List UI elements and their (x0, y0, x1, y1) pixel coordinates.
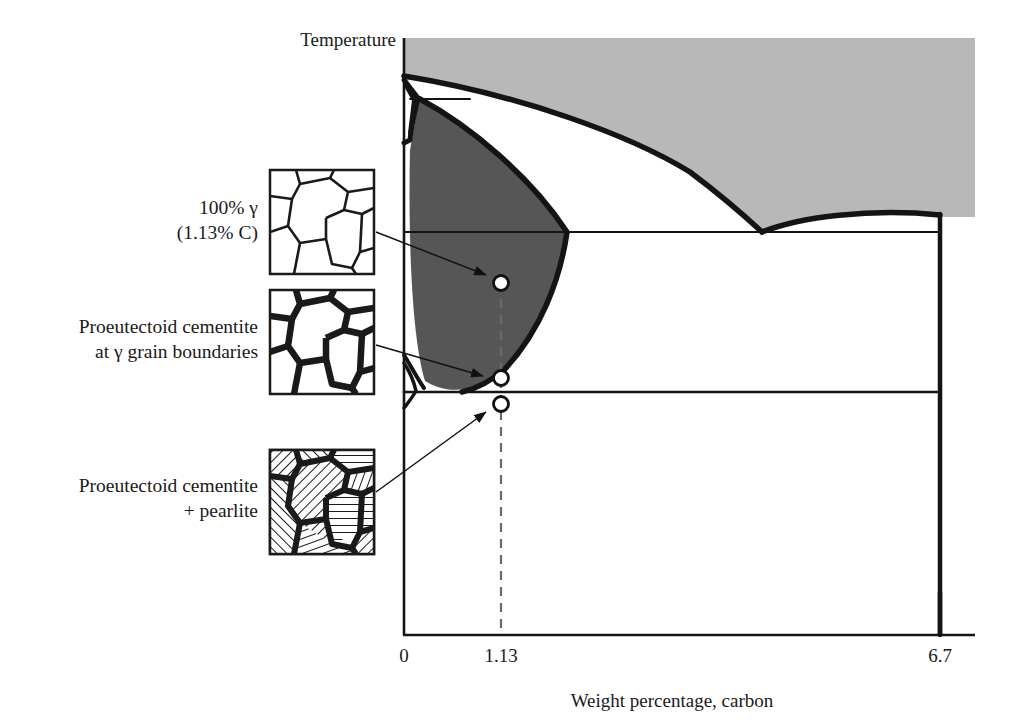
callout-austenite-line2: (1.13% C) (177, 222, 258, 244)
x-axis-title: Weight percentage, carbon (571, 690, 774, 711)
marker-proeutectoid-cementite[interactable] (494, 371, 509, 386)
phase-diagram-svg: Temperature Weight percentage, carbon 0 … (0, 0, 1010, 728)
micrograph-cementite-pearlite (270, 450, 374, 554)
callout-cementite-line1: Proeutectoid cementite (79, 316, 258, 337)
callout-cementite-line2: at γ grain boundaries (95, 341, 258, 362)
figure-root: Temperature Weight percentage, carbon 0 … (0, 0, 1010, 728)
micrograph-austenite (270, 170, 374, 274)
micrograph-proeutectoid-cementite (270, 290, 374, 394)
y-axis-title: Temperature (300, 29, 396, 50)
callout-pearlite-line1: Proeutectoid cementite (79, 475, 258, 496)
x-tick-label-6p7: 6.7 (928, 645, 952, 666)
leader-line-pearlite (376, 412, 486, 492)
x-tick-label-0: 0 (399, 645, 409, 666)
marker-austenite[interactable] (494, 276, 509, 291)
x-tick-label-1p13: 1.13 (484, 645, 517, 666)
callout-austenite-line1: 100% γ (199, 197, 258, 218)
callout-pearlite-line2: + pearlite (184, 500, 258, 521)
marker-cementite-pearlite[interactable] (494, 397, 509, 412)
